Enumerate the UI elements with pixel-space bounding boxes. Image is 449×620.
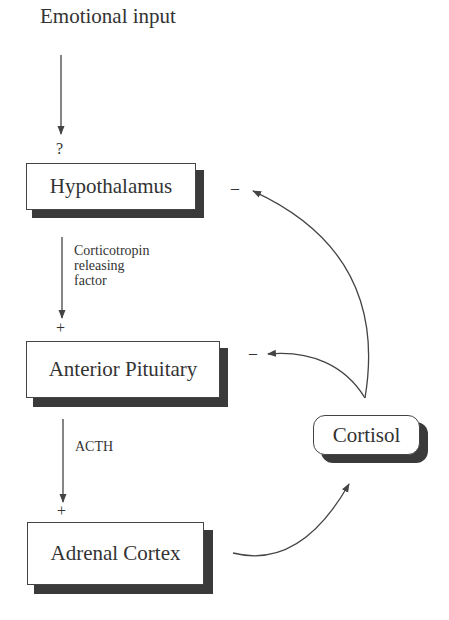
hypothalamus-label: Hypothalamus — [50, 174, 172, 199]
stimulate-sign-pituitary: + — [56, 320, 65, 336]
unknown-marker: ? — [56, 141, 63, 157]
cortisol-label: Cortisol — [333, 423, 401, 448]
anterior-pituitary-box: Anterior Pituitary — [26, 341, 220, 398]
hypothalamus-box: Hypothalamus — [26, 163, 196, 210]
emotional-input-label: Emotional input — [40, 6, 176, 27]
crf-label-line3: factor — [74, 273, 107, 288]
inhibit-sign-pituitary: – — [249, 345, 257, 361]
stimulate-sign-adrenal: + — [57, 503, 66, 519]
anterior-pituitary-label: Anterior Pituitary — [49, 357, 198, 382]
inhibit-sign-hypothalamus: – — [231, 180, 239, 196]
crf-label-line1: Corticotropin — [74, 243, 149, 258]
arrow-cortisol-feedback-pituitary — [268, 353, 365, 398]
adrenal-cortex-label: Adrenal Cortex — [50, 541, 180, 566]
acth-label: ACTH — [75, 439, 113, 454]
adrenal-cortex-box: Adrenal Cortex — [27, 522, 204, 585]
arrow-cortisol-feedback-hypothalamus — [253, 191, 369, 398]
crf-label-line2: releasing — [74, 258, 125, 273]
arrow-adrenal-to-cortisol — [233, 484, 349, 556]
cortisol-box: Cortisol — [313, 415, 420, 455]
